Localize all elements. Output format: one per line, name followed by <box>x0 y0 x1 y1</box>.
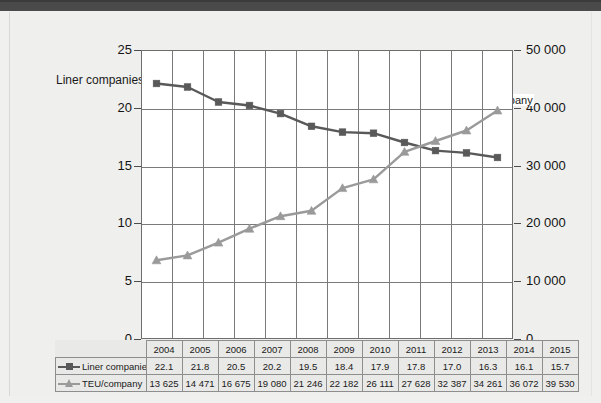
table-cell: 19 080 <box>254 375 290 392</box>
table-cell: 22 182 <box>326 375 362 392</box>
data-point-marker-square <box>215 99 222 106</box>
table-cell: 26 111 <box>362 375 398 392</box>
series-line <box>157 84 498 158</box>
right-axis-tickmark <box>514 108 521 109</box>
table-column-header: 2011 <box>398 341 434 358</box>
plot-wrapper <box>141 50 513 339</box>
table-cell: 13 625 <box>146 375 182 392</box>
table-corner-cell <box>56 341 147 358</box>
legend-key-marker <box>65 379 73 387</box>
table-cell: 21 246 <box>290 375 326 392</box>
table-cell: 21.8 <box>182 358 218 375</box>
table-column-header: 2005 <box>182 341 218 358</box>
top-band-highlight <box>0 0 601 2</box>
table-column-header: 2014 <box>506 341 542 358</box>
table-column-header: 2010 <box>362 341 398 358</box>
top-scan-band <box>0 0 601 11</box>
table-column-header: 2015 <box>542 341 578 358</box>
table-row-label: TEU/company <box>82 378 142 389</box>
data-point-marker-square <box>494 154 501 161</box>
table-cell: 16 675 <box>218 375 254 392</box>
left-axis-tickmark <box>134 166 141 167</box>
chart-paper: 0510152025 010 00020 00030 00040 00050 0… <box>9 12 592 396</box>
table-row-header: Liner companies <box>56 358 147 375</box>
table-cell: 27 628 <box>398 375 434 392</box>
left-axis-tick-label: 25 <box>48 42 132 57</box>
table-row: Liner companies22.121.820.520.219.518.41… <box>56 358 579 375</box>
table-cell: 36 072 <box>506 375 542 392</box>
page-canvas: 0510152025 010 00020 00030 00040 00050 0… <box>0 0 601 403</box>
right-axis-tickmark <box>514 223 521 224</box>
left-axis-tick-label: 10 <box>48 215 132 230</box>
table-cell: 19.5 <box>290 358 326 375</box>
series-annotation-liner-companies: Liner companies <box>54 73 146 87</box>
left-axis-tickmark <box>134 50 141 51</box>
left-axis-tick-label: 20 <box>48 100 132 115</box>
table-row-label: Liner companies <box>82 361 146 372</box>
legend-key-triangle-icon <box>58 379 80 388</box>
table-column-header: 2013 <box>470 341 506 358</box>
data-point-marker-square <box>339 129 346 136</box>
right-axis-tickmark <box>514 166 521 167</box>
table-cell: 34 261 <box>470 375 506 392</box>
table-cell: 39 530 <box>542 375 578 392</box>
table-cell: 17.9 <box>362 358 398 375</box>
left-axis-tick-label: 5 <box>48 273 132 288</box>
left-axis-tickmark <box>134 281 141 282</box>
table-cell: 20.2 <box>254 358 290 375</box>
table-column-header: 2008 <box>290 341 326 358</box>
legend-key-marker <box>66 363 73 370</box>
table-cell: 16.3 <box>470 358 506 375</box>
right-axis-tickmark <box>514 281 521 282</box>
right-axis-tick-label: 50 000 <box>526 42 566 57</box>
table-cell: 17.8 <box>398 358 434 375</box>
table-row: TEU/company13 62514 47116 67519 08021 24… <box>56 375 579 392</box>
left-axis-tick-label: 15 <box>48 158 132 173</box>
table-cell: 18.4 <box>326 358 362 375</box>
table-cell: 22.1 <box>146 358 182 375</box>
right-axis-tick-label: 30 000 <box>526 158 566 173</box>
legend-key-square-icon <box>58 362 80 371</box>
table-column-header: 2006 <box>218 341 254 358</box>
data-point-marker-square <box>277 110 284 117</box>
data-point-marker-square <box>308 123 315 130</box>
table-cell: 20.5 <box>218 358 254 375</box>
series-line <box>157 111 498 261</box>
right-axis-tickmark <box>514 50 521 51</box>
series-liner-companies <box>153 80 501 161</box>
data-point-marker-square <box>463 150 470 157</box>
chart-data-table: 2004200520062007200820092010201120122013… <box>55 340 579 392</box>
table-row-header: TEU/company <box>56 375 147 392</box>
left-axis-tickmark <box>134 223 141 224</box>
table-column-header: 2009 <box>326 341 362 358</box>
data-point-marker-square <box>432 147 439 154</box>
table-cell: 32 387 <box>434 375 470 392</box>
series-overlay <box>141 50 513 339</box>
data-point-marker-square <box>184 84 191 91</box>
table-body: Liner companies22.121.820.520.219.518.41… <box>56 358 579 392</box>
table-column-header: 2004 <box>146 341 182 358</box>
table-cell: 17.0 <box>434 358 470 375</box>
data-point-marker-triangle <box>493 106 502 114</box>
table-header-row: 2004200520062007200820092010201120122013… <box>56 341 579 358</box>
data-point-marker-square <box>153 80 160 87</box>
left-axis-tickmark <box>134 108 141 109</box>
table-cell: 16.1 <box>506 358 542 375</box>
table-column-header: 2007 <box>254 341 290 358</box>
right-axis-tick-label: 10 000 <box>526 273 566 288</box>
data-point-marker-square <box>401 139 408 146</box>
table-column-header: 2012 <box>434 341 470 358</box>
data-point-marker-square <box>370 130 377 137</box>
table-cell: 15.7 <box>542 358 578 375</box>
right-axis-tick-label: 20 000 <box>526 215 566 230</box>
data-point-marker-square <box>246 102 253 109</box>
table-cell: 14 471 <box>182 375 218 392</box>
